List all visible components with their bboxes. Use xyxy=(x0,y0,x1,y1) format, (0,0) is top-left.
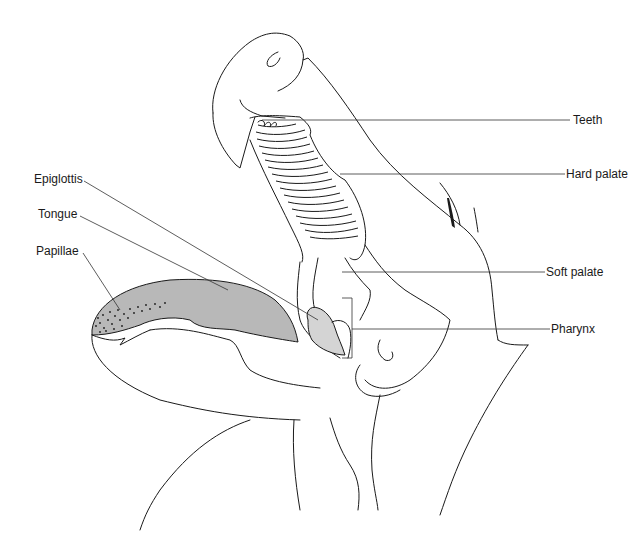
pharynx-inner xyxy=(313,258,318,310)
nostril xyxy=(267,52,280,67)
palate-inner xyxy=(250,140,303,262)
back-of-head xyxy=(498,340,528,345)
label-pharynx: Pharynx xyxy=(551,322,595,336)
diagram-drawing xyxy=(0,0,635,539)
label-papillae: Papillae xyxy=(36,244,79,258)
soft-palate-outline xyxy=(345,258,370,320)
lip-fold xyxy=(240,100,285,118)
label-epiglottis: Epiglottis xyxy=(34,172,83,186)
tongue-shape xyxy=(92,279,298,342)
label-hard-palate: Hard palate xyxy=(566,167,628,181)
neck-mid xyxy=(330,418,359,510)
anatomy-diagram: Teeth Hard palate Soft palate Pharynx Ep… xyxy=(0,0,635,539)
neck-back-inner xyxy=(372,395,380,510)
muzzle-inner xyxy=(278,60,303,91)
cheek-line-2 xyxy=(474,208,478,232)
throat-lower xyxy=(140,420,250,530)
label-soft-palate: Soft palate xyxy=(546,265,603,279)
neck-front xyxy=(293,420,300,510)
neck-back xyxy=(440,345,528,515)
palatal-ridges xyxy=(256,124,358,239)
epiglottis-shape xyxy=(307,307,345,355)
label-teeth: Teeth xyxy=(573,113,602,127)
whisker-mark xyxy=(447,198,455,228)
jaw-left-edge xyxy=(213,113,255,168)
label-tongue: Tongue xyxy=(38,207,77,221)
larynx-fold xyxy=(356,365,400,396)
palate-outer xyxy=(250,116,366,260)
larynx-curl xyxy=(378,340,393,361)
lower-jaw xyxy=(92,335,300,420)
pharynx-right-wall xyxy=(365,245,450,388)
